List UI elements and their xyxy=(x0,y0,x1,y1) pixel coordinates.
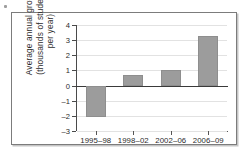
x-tick-mark xyxy=(96,131,97,135)
bar-1998–02 xyxy=(123,75,143,86)
x-tick-label: 2006–09 xyxy=(193,136,224,145)
y-axis-title-line-2: (thousands of students xyxy=(34,0,44,75)
gridline xyxy=(77,25,227,26)
x-tick-mark xyxy=(208,131,209,135)
y-tick-mark xyxy=(72,40,76,41)
x-tick-label: 2002–06 xyxy=(155,136,186,145)
y-tick-label: 1 xyxy=(66,66,70,75)
y-axis-title-line-1: Average annual growth xyxy=(24,0,34,75)
y-tick-label: –2 xyxy=(62,111,70,120)
y-tick-label: 3 xyxy=(66,36,70,45)
y-tick-label: 4 xyxy=(66,21,70,30)
x-tick-label: 1998–02 xyxy=(118,136,149,145)
scan-speck-icon xyxy=(4,5,7,8)
bar-chart-plot: 43210–1–2–3 1995–981998–022002–062006–09 xyxy=(64,23,229,143)
y-axis-title: Average annual growth (thousands of stud… xyxy=(20,0,60,97)
y-tick-mark xyxy=(72,70,76,71)
x-tick-mark xyxy=(171,131,172,135)
bar-2002–06 xyxy=(161,70,181,86)
bar-2006–09 xyxy=(198,36,218,85)
x-tick-mark xyxy=(133,131,134,135)
y-tick-mark xyxy=(72,86,76,87)
bar-1995–98 xyxy=(86,86,106,118)
x-tick-label: 1995–98 xyxy=(80,136,111,145)
plot-area xyxy=(77,25,227,131)
y-tick-mark xyxy=(72,55,76,56)
y-tick-label: –1 xyxy=(62,96,70,105)
y-tick-mark xyxy=(72,25,76,26)
y-tick-label: 2 xyxy=(66,51,70,60)
y-tick-mark xyxy=(72,131,76,132)
figure-frame: Average annual growth (thousands of stud… xyxy=(11,12,237,145)
gridline xyxy=(77,131,227,132)
y-tick-mark xyxy=(72,116,76,117)
y-tick-mark xyxy=(72,101,76,102)
y-axis-title-line-3: per year) xyxy=(45,0,55,75)
y-tick-label: 0 xyxy=(66,81,70,90)
y-tick-label: –3 xyxy=(62,127,70,136)
